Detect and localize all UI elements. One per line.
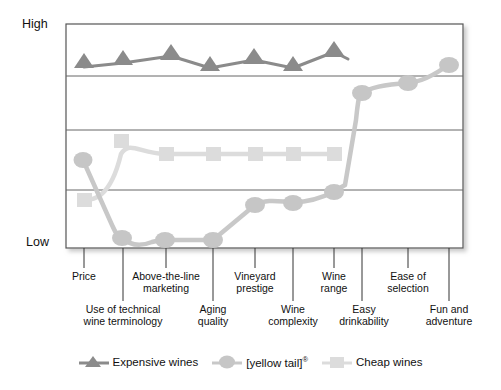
legend-label-cheap-wines: Cheap wines: [356, 356, 422, 368]
circle-marker-icon: [212, 355, 242, 369]
category-label-wine-complexity: Wine complexity: [268, 303, 318, 327]
category-label-line2: wine terminology: [84, 315, 163, 327]
category-label-line1: Wine: [321, 270, 348, 282]
category-label-use-of-technical-wine-terminology: Use of technical wine terminology: [84, 303, 163, 327]
triangle-marker-icon: [79, 355, 109, 369]
category-label-line1: Easy: [339, 303, 389, 315]
category-label-line2: drinkability: [339, 315, 389, 327]
square-marker-icon: [322, 355, 352, 369]
category-label-line2: complexity: [268, 315, 318, 327]
category-label-fun-and-adventure: Fun and adventure: [426, 303, 473, 327]
category-label-price: Price: [72, 270, 96, 282]
legend-item-expensive-wines: Expensive wines: [79, 355, 199, 369]
category-label-ease-of-selection: Ease of selection: [387, 270, 428, 294]
legend-label-yellow-tail-text: [yellow tail]: [246, 357, 302, 369]
category-label-line1: Price: [72, 270, 96, 282]
category-label-line1: Wine: [268, 303, 318, 315]
category-label-line2: marketing: [132, 282, 200, 294]
category-label-easy-drinkability: Easy drinkability: [339, 303, 389, 327]
category-label-vineyard-prestige: Vineyard prestige: [234, 270, 275, 294]
category-label-line2: adventure: [426, 315, 473, 327]
category-label-line2: prestige: [234, 282, 275, 294]
category-label-line1: Aging: [198, 303, 228, 315]
category-label-line1: Above-the-line: [132, 270, 200, 282]
legend-item-yellow-tail: [yellow tail]®: [212, 355, 308, 369]
category-label-line1: Fun and: [426, 303, 473, 315]
category-label-aging-quality: Aging quality: [198, 303, 228, 327]
legend-label-yellow-tail: [yellow tail]®: [246, 355, 308, 369]
y-axis-low-label: Low: [26, 235, 49, 249]
category-label-wine-range: Wine range: [321, 270, 348, 294]
registered-trademark-icon: ®: [302, 355, 308, 364]
category-label-line2: selection: [387, 282, 428, 294]
category-label-line2: range: [321, 282, 348, 294]
strategy-canvas-chart: [0, 0, 501, 390]
legend-label-expensive-wines: Expensive wines: [113, 356, 199, 368]
category-label-line2: quality: [198, 315, 228, 327]
legend-item-cheap-wines: Cheap wines: [322, 355, 422, 369]
category-label-line1: Vineyard: [234, 270, 275, 282]
y-axis-high-label: High: [22, 17, 48, 31]
category-label-line1: Ease of: [387, 270, 428, 282]
category-label-above-the-line-marketing: Above-the-line marketing: [132, 270, 200, 294]
chart-legend: Expensive wines [yellow tail]® Cheap win…: [0, 355, 501, 369]
category-label-line1: Use of technical: [84, 303, 163, 315]
